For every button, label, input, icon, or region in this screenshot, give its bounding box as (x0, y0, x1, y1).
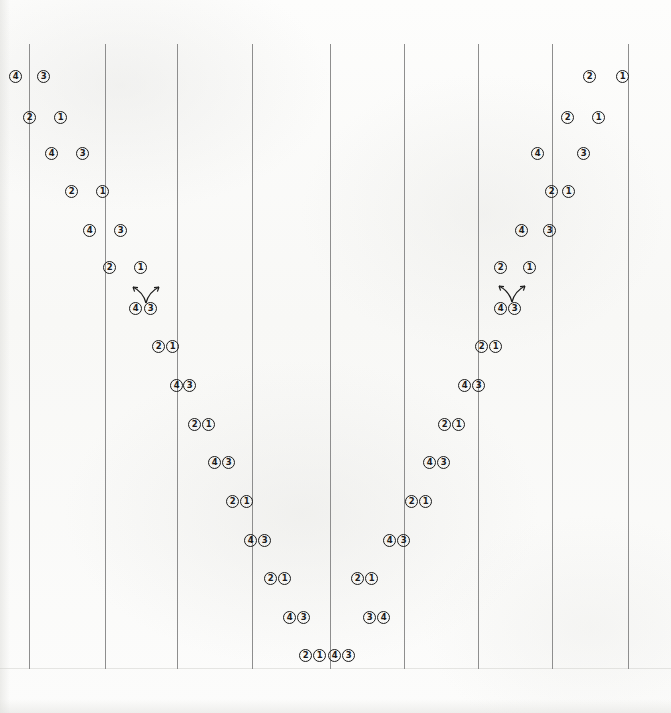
data-marker-1: 1 (134, 261, 147, 274)
gridline-9 (628, 44, 629, 669)
data-marker-4: 4 (328, 649, 341, 662)
data-marker-1: 1 (166, 340, 179, 353)
scanned-figure: 4321432143214321432143214321432143342143… (0, 0, 671, 713)
data-marker-4: 4 (515, 224, 528, 237)
data-marker-2: 2 (405, 495, 418, 508)
data-marker-3: 3 (114, 224, 127, 237)
data-marker-2: 2 (438, 418, 451, 431)
data-marker-3: 3 (577, 147, 590, 160)
data-marker-1: 1 (313, 649, 326, 662)
data-marker-1: 1 (365, 572, 378, 585)
data-marker-3: 3 (472, 379, 485, 392)
data-marker-1: 1 (278, 572, 291, 585)
gridline-2 (105, 44, 106, 669)
data-marker-4: 4 (83, 224, 96, 237)
gridline-5 (330, 44, 331, 669)
data-marker-1: 1 (592, 111, 605, 124)
data-marker-4: 4 (531, 147, 544, 160)
data-marker-2: 2 (152, 340, 165, 353)
data-marker-4: 4 (383, 534, 396, 547)
gridline-1 (29, 44, 30, 669)
data-marker-4: 4 (244, 534, 257, 547)
data-marker-2: 2 (351, 572, 364, 585)
data-marker-2: 2 (23, 111, 36, 124)
data-marker-1: 1 (202, 418, 215, 431)
data-marker-3: 3 (437, 456, 450, 469)
data-marker-1: 1 (419, 495, 432, 508)
gridline-4 (252, 44, 253, 669)
baseline-rule (0, 668, 671, 669)
data-marker-4: 4 (208, 456, 221, 469)
data-marker-3: 3 (222, 456, 235, 469)
double-arrow-left-icon (126, 283, 166, 305)
data-marker-2: 2 (545, 185, 558, 198)
data-marker-4: 4 (45, 147, 58, 160)
data-marker-2: 2 (561, 111, 574, 124)
data-marker-4: 4 (423, 456, 436, 469)
data-marker-3: 3 (297, 611, 310, 624)
data-marker-1: 1 (562, 185, 575, 198)
data-marker-3: 3 (342, 649, 355, 662)
data-marker-1: 1 (616, 70, 629, 83)
gridline-6 (404, 44, 405, 669)
data-marker-3: 3 (37, 70, 50, 83)
data-marker-4: 4 (9, 70, 22, 83)
data-marker-2: 2 (226, 495, 239, 508)
data-marker-4: 4 (458, 379, 471, 392)
data-marker-3: 3 (258, 534, 271, 547)
scan-edge-shadow-bottom (0, 699, 671, 713)
data-marker-3: 3 (363, 611, 376, 624)
data-marker-3: 3 (183, 379, 196, 392)
gridline-8 (552, 44, 553, 669)
scan-edge-shadow-left (0, 0, 10, 713)
data-marker-2: 2 (583, 70, 596, 83)
data-marker-3: 3 (397, 534, 410, 547)
data-marker-1: 1 (240, 495, 253, 508)
double-arrow-right-icon (492, 282, 532, 304)
data-marker-2: 2 (188, 418, 201, 431)
data-marker-1: 1 (489, 340, 502, 353)
gridline-3 (177, 44, 178, 669)
data-marker-3: 3 (76, 147, 89, 160)
data-marker-1: 1 (54, 111, 67, 124)
data-marker-2: 2 (475, 340, 488, 353)
data-marker-4: 4 (377, 611, 390, 624)
data-marker-2: 2 (264, 572, 277, 585)
data-marker-1: 1 (96, 185, 109, 198)
gridline-7 (478, 44, 479, 669)
data-marker-2: 2 (65, 185, 78, 198)
paper-texture (0, 0, 671, 713)
data-marker-2: 2 (494, 261, 507, 274)
data-marker-4: 4 (170, 379, 183, 392)
data-marker-1: 1 (523, 261, 536, 274)
data-marker-2: 2 (299, 649, 312, 662)
data-marker-1: 1 (452, 418, 465, 431)
data-marker-2: 2 (103, 261, 116, 274)
data-marker-4: 4 (283, 611, 296, 624)
data-marker-3: 3 (543, 224, 556, 237)
